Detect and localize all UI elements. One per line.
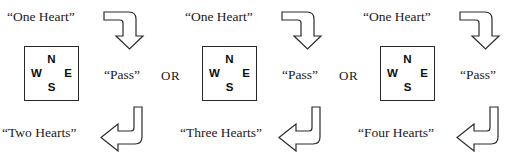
- elbow-arrow-down-left-icon: [98, 106, 144, 152]
- compass-box: N W E S: [380, 46, 435, 101]
- bidding-panel: “One Heart” N W E S “Pass” “Three Hearts…: [178, 0, 338, 162]
- compass-south: S: [404, 82, 412, 94]
- bidding-panel: “One Heart” N W E S “Pass” “Two Hearts”: [0, 0, 160, 162]
- opening-bid-label: “One Heart”: [7, 10, 75, 24]
- final-contract-label: “Three Hearts”: [180, 126, 262, 140]
- final-contract-label: “Four Hearts”: [358, 126, 434, 140]
- compass-north: N: [225, 54, 233, 66]
- opening-bid-label: “One Heart”: [185, 10, 253, 24]
- compass-south: S: [226, 82, 234, 94]
- response-bid-label: “Pass”: [282, 68, 318, 82]
- elbow-arrow-right-down-icon: [459, 6, 501, 50]
- compass-box: N W E S: [24, 46, 79, 101]
- compass-south: S: [48, 82, 56, 94]
- compass-east: E: [420, 68, 428, 80]
- compass-west: W: [387, 68, 398, 80]
- response-bid-label: “Pass”: [460, 68, 496, 82]
- compass-north: N: [47, 54, 55, 66]
- compass-north: N: [403, 54, 411, 66]
- bidding-panel: “One Heart” N W E S “Pass” “Four Hearts”: [356, 0, 516, 162]
- elbow-arrow-right-down-icon: [103, 6, 145, 50]
- compass-east: E: [64, 68, 72, 80]
- compass-box: N W E S: [202, 46, 257, 101]
- final-contract-label: “Two Hearts”: [2, 126, 76, 140]
- elbow-arrow-right-down-icon: [281, 6, 323, 50]
- compass-east: E: [242, 68, 250, 80]
- response-bid-label: “Pass”: [104, 68, 140, 82]
- compass-west: W: [31, 68, 42, 80]
- elbow-arrow-down-left-icon: [276, 106, 322, 152]
- opening-bid-label: “One Heart”: [363, 10, 431, 24]
- compass-west: W: [209, 68, 220, 80]
- bidding-sequence-diagram: “One Heart” N W E S “Pass” “Two Hearts” …: [0, 0, 520, 162]
- elbow-arrow-down-left-icon: [454, 106, 500, 152]
